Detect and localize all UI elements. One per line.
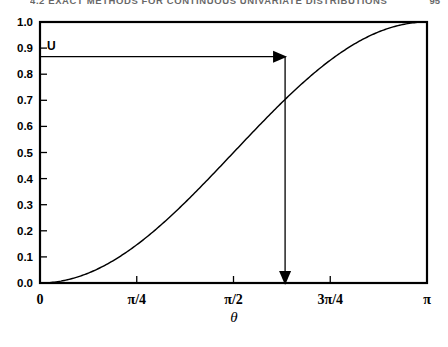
y-tick-label: 0.9	[17, 42, 33, 54]
y-tick-label: 0.7	[17, 94, 33, 106]
y-tick-label: 0.5	[17, 147, 34, 159]
y-tick-label: 0.1	[17, 251, 34, 263]
cdf-figure: 0.00.10.20.30.40.50.60.70.80.91.0 0π/4π/…	[0, 0, 448, 347]
x-tick-label: 0	[37, 292, 44, 307]
plot-area: 0.00.10.20.30.40.50.60.70.80.91.0 0π/4π/…	[0, 0, 448, 347]
x-tick-label: 3π/4	[317, 292, 343, 307]
x-tick-label: π/4	[127, 292, 146, 307]
x-tick-label: π/2	[224, 292, 243, 307]
y-tick-label: 1.0	[17, 16, 33, 28]
y-tick-label: 0.2	[17, 225, 33, 237]
y-tick-label: 0.3	[17, 199, 33, 211]
y-tick-label: 0.6	[17, 120, 33, 132]
y-tick-label: 0.4	[17, 173, 34, 185]
y-axis-tick-labels: 0.00.10.20.30.40.50.60.70.80.91.0	[17, 16, 34, 289]
x-axis-tick-labels: 0π/4π/23π/4π	[37, 292, 432, 307]
u-horizontal-arrow	[40, 51, 287, 63]
y-tick-label: 0.8	[17, 68, 34, 80]
y-tick-label: 0.0	[17, 277, 33, 289]
theta-vertical-arrow	[279, 57, 291, 285]
cdf-curve	[40, 22, 427, 283]
x-axis-title: θ	[230, 309, 238, 325]
x-tick-label: π	[423, 292, 431, 307]
u-value-label: U	[47, 39, 56, 53]
